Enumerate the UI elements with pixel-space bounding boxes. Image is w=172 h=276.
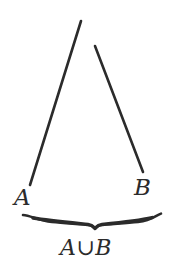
set-a-label: A bbox=[14, 186, 31, 209]
set-b-segment bbox=[95, 46, 143, 172]
union-label: A∪B bbox=[0, 237, 172, 259]
set-b-label: B bbox=[134, 176, 151, 199]
set-a-segment bbox=[30, 21, 81, 185]
figure-canvas: A B A∪B bbox=[0, 0, 172, 276]
